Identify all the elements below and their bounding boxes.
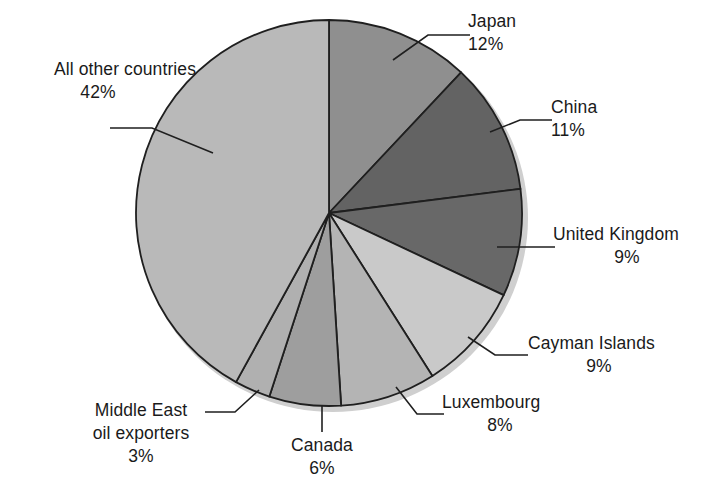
slice-label-text-line1: Middle East	[95, 400, 188, 420]
slice-label-value: 9%	[553, 246, 701, 269]
slice-label-china: China 11%	[551, 96, 597, 142]
slice-label-text: United Kingdom	[553, 224, 679, 244]
slice-label-text-line2: oil exporters	[76, 422, 206, 445]
slice-label-text: China	[551, 97, 597, 117]
slice-label-text: All other countries	[54, 59, 196, 79]
pie-chart-figure: All other countries 42% Japan 12% China …	[0, 0, 708, 492]
slice-label-value: 9%	[528, 355, 670, 378]
slice-label-all-other-countries: All other countries 42%	[0, 58, 196, 104]
slice-label-value: 3%	[76, 445, 206, 468]
slice-label-middle-east-oil-exporters: Middle East oil exporters 3%	[76, 399, 206, 467]
slice-label-value: 12%	[468, 33, 516, 56]
slice-label-canada: Canada 6%	[262, 434, 382, 480]
slice-label-text: Canada	[291, 435, 353, 455]
slice-label-cayman-islands: Cayman Islands 9%	[528, 332, 680, 378]
slice-label-value: 11%	[551, 119, 597, 142]
slice-label-value: 42%	[0, 81, 196, 104]
slice-label-text: Japan	[468, 11, 516, 31]
slice-label-japan: Japan 12%	[468, 10, 516, 56]
slice-label-united-kingdom: United Kingdom 9%	[553, 223, 703, 269]
slice-label-text: Luxembourg	[442, 392, 540, 412]
slice-label-value: 8%	[442, 414, 558, 437]
slice-label-luxembourg: Luxembourg 8%	[442, 391, 564, 437]
slice-label-value: 6%	[262, 457, 382, 480]
slice-label-text: Cayman Islands	[528, 333, 655, 353]
